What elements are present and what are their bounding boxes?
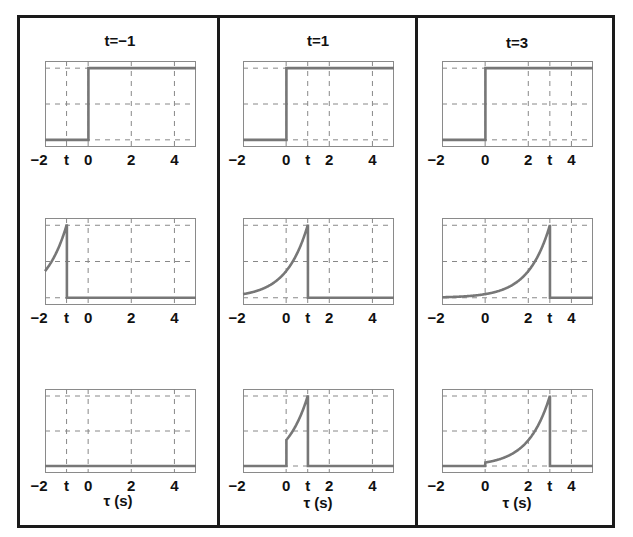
x-tick-label: 0 bbox=[282, 151, 290, 168]
x-tick-label: t bbox=[64, 477, 69, 494]
x-tick-label: 4 bbox=[368, 309, 376, 326]
column-title-t-3: t=3 bbox=[457, 34, 577, 51]
x-tick-label: −2 bbox=[228, 477, 245, 494]
plot-col2-row1 bbox=[442, 218, 593, 305]
x-tick-label: 0 bbox=[84, 477, 92, 494]
x-tick-label: −2 bbox=[427, 477, 444, 494]
x-tick-label: 4 bbox=[170, 309, 178, 326]
plot-col1-row0 bbox=[243, 61, 394, 147]
x-tick-label: 0 bbox=[84, 151, 92, 168]
plot-col0-row0 bbox=[45, 61, 196, 147]
x-tick-label: 0 bbox=[481, 309, 489, 326]
x-tick-label: 0 bbox=[282, 309, 290, 326]
column-title-t-minus-1: t=−1 bbox=[60, 32, 180, 49]
x-tick-label: t bbox=[64, 309, 69, 326]
x-tick-label: −2 bbox=[228, 151, 245, 168]
x-tick-label: 0 bbox=[84, 309, 92, 326]
plot-col0-row2 bbox=[45, 389, 196, 473]
x-tick-label: t bbox=[64, 151, 69, 168]
x-tick-label: −2 bbox=[228, 309, 245, 326]
x-tick-label: −2 bbox=[427, 309, 444, 326]
x-tick-label: 2 bbox=[127, 309, 135, 326]
x-tick-label: 0 bbox=[481, 477, 489, 494]
x-tick-label: 4 bbox=[567, 151, 575, 168]
x-tick-label: 2 bbox=[524, 477, 532, 494]
x-tick-label: 2 bbox=[127, 151, 135, 168]
x-tick-label: −2 bbox=[30, 309, 47, 326]
x-tick-label: −2 bbox=[427, 151, 444, 168]
x-tick-label: −2 bbox=[30, 477, 47, 494]
plot-col1-row1 bbox=[243, 218, 394, 305]
x-tick-label: 2 bbox=[325, 309, 333, 326]
x-tick-label: 4 bbox=[567, 477, 575, 494]
x-tick-label: 0 bbox=[481, 151, 489, 168]
x-tick-label: 4 bbox=[567, 309, 575, 326]
plot-col1-row2 bbox=[243, 389, 394, 473]
x-tick-label: 4 bbox=[368, 151, 376, 168]
x-tick-label: t bbox=[305, 151, 310, 168]
x-tick-label: 2 bbox=[524, 151, 532, 168]
plot-col0-row1 bbox=[45, 218, 196, 305]
x-tick-label: t bbox=[305, 309, 310, 326]
x-tick-label: t bbox=[305, 477, 310, 494]
x-tick-label: 0 bbox=[282, 477, 290, 494]
x-tick-label: 2 bbox=[325, 151, 333, 168]
x-axis-label-col1: τ (s) bbox=[303, 494, 332, 511]
x-tick-label: 2 bbox=[524, 309, 532, 326]
x-tick-label: 2 bbox=[325, 477, 333, 494]
x-tick-label: −2 bbox=[30, 151, 47, 168]
x-tick-label: t bbox=[547, 309, 552, 326]
x-tick-label: 4 bbox=[170, 151, 178, 168]
signal-curve bbox=[45, 225, 196, 297]
plot-col2-row2 bbox=[442, 389, 593, 473]
x-axis-label-col2: τ (s) bbox=[502, 494, 531, 511]
x-tick-label: t bbox=[547, 477, 552, 494]
plot-col2-row0 bbox=[442, 61, 593, 147]
column-title-t-1: t=1 bbox=[258, 32, 378, 49]
x-tick-label: t bbox=[547, 151, 552, 168]
x-axis-label-col0: τ (s) bbox=[103, 492, 132, 509]
x-tick-label: 4 bbox=[368, 477, 376, 494]
x-tick-label: 4 bbox=[170, 477, 178, 494]
